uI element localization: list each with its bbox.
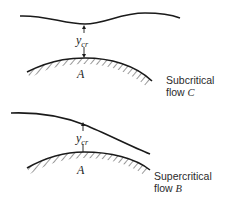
caption-supercritical: Supercritical flow B xyxy=(154,170,212,195)
caption-var: C xyxy=(188,87,195,98)
depth-label-subcritical: ycr xyxy=(76,33,88,49)
depth-subscript: cr xyxy=(81,40,88,49)
caption-line2: flow B xyxy=(154,182,212,195)
water-surface-subcritical xyxy=(20,13,180,24)
hump-hatching-subcritical xyxy=(27,58,152,86)
caption-var: B xyxy=(176,183,182,194)
point-label-a-subcritical: A xyxy=(77,67,84,82)
flow-over-hump-diagram xyxy=(0,0,232,198)
point-label-a-supercritical: A xyxy=(77,163,84,178)
caption-prefix: flow xyxy=(166,86,188,98)
caption-subcritical: Subcritical flow C xyxy=(166,74,214,99)
caption-prefix: flow xyxy=(154,182,176,194)
depth-label-supercritical: ycr xyxy=(76,131,88,147)
caption-line2: flow C xyxy=(166,86,214,99)
subcritical-panel xyxy=(20,13,180,86)
caption-line1: Supercritical xyxy=(154,170,212,182)
depth-subscript: cr xyxy=(81,138,88,147)
caption-line1: Subcritical xyxy=(166,74,214,86)
hump-hatching-supercritical xyxy=(27,152,150,175)
